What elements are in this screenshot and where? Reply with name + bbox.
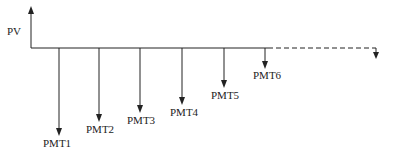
- arrow-down-icon: [373, 52, 379, 59]
- cash-flow-diagram: PV PMT1 PMT2 PMT3 PMT4 PMT5 PMT6: [0, 0, 393, 155]
- payment-arrow-6: [262, 48, 268, 69]
- arrow-down-icon: [56, 128, 62, 136]
- arrow-up-icon: [28, 6, 34, 14]
- arrow-down-icon: [262, 61, 268, 69]
- payment-label-5: PMT5: [211, 89, 240, 101]
- payment-arrow-2: [96, 48, 102, 122]
- payment-label-2: PMT2: [86, 123, 114, 135]
- payment-label-4: PMT4: [170, 106, 199, 118]
- payment-label-1: PMT1: [43, 137, 71, 149]
- payment-arrow-4: [179, 48, 185, 105]
- payment-arrow-1: [56, 48, 62, 136]
- payment-label-6: PMT6: [253, 69, 282, 81]
- continuation-arrow: [373, 48, 379, 59]
- arrow-down-icon: [221, 80, 227, 88]
- payment-label-3: PMT3: [127, 114, 156, 126]
- arrow-down-icon: [137, 105, 143, 113]
- arrow-down-icon: [96, 114, 102, 122]
- pv-arrow: [28, 6, 34, 48]
- pv-label: PV: [7, 25, 21, 37]
- payment-arrow-5: [221, 48, 227, 88]
- arrow-down-icon: [179, 97, 185, 105]
- payment-arrow-3: [137, 48, 143, 113]
